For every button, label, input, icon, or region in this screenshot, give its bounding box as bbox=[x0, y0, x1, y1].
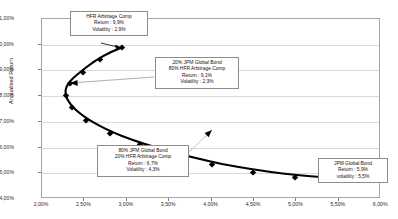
callout-line: volatility : 5,5% bbox=[322, 174, 384, 180]
callout-line: Volatility : 2,9% bbox=[74, 27, 144, 33]
x-tick-label-2-00: 2,00% bbox=[19, 201, 63, 207]
gridline-horizontal bbox=[42, 96, 379, 97]
callout-hfr-arbitrage: HFR Arbitrage Comp Return : 9,9% Volatil… bbox=[70, 11, 148, 36]
y-tick-label-8: 8,00% bbox=[0, 95, 14, 101]
y-tick-label-5: 5,00% bbox=[0, 172, 14, 178]
y-tick-label-6: 6,00% bbox=[0, 147, 14, 153]
callout-jpm-global-bond: JPM Global Bond Return : 5,9% volatility… bbox=[318, 158, 388, 183]
x-tick-label-3-00: 3,00% bbox=[104, 201, 148, 207]
x-tick-mark bbox=[295, 198, 296, 201]
callout-mix-80-20: 80% JPM Global Bond 20% HFR Arbitrage Co… bbox=[97, 145, 189, 177]
gridline-horizontal bbox=[42, 148, 379, 149]
callout-line: 80% HFR Arbitrage Comp bbox=[159, 66, 235, 72]
callout-line: Volatility : 4,3% bbox=[101, 167, 185, 173]
x-tick-label-6-00: 6,00% bbox=[358, 201, 398, 207]
x-tick-label-4-50: 4,50% bbox=[231, 201, 275, 207]
x-tick-label-3-50: 3,50% bbox=[146, 201, 190, 207]
x-tick-mark bbox=[168, 198, 169, 201]
callout-mix-20-80: 20% JPM Global Bond 80% HFR Arbitrage Co… bbox=[155, 57, 239, 89]
x-tick-mark bbox=[253, 198, 254, 201]
x-tick-mark bbox=[211, 198, 212, 201]
x-tick-mark bbox=[338, 198, 339, 201]
y-tick-label-7: 7,00% bbox=[0, 121, 14, 127]
gridline-horizontal bbox=[42, 45, 379, 46]
x-tick-mark bbox=[126, 198, 127, 201]
y-tick-label-9: 9,00% bbox=[0, 69, 14, 75]
efficient-frontier-chart: Annualised Return 11,00% 10,00% 9,00% 8,… bbox=[0, 0, 398, 219]
x-tick-label-4-00: 4,00% bbox=[189, 201, 233, 207]
gridline-horizontal bbox=[42, 122, 379, 123]
y-tick-label-10: 10,00% bbox=[0, 44, 14, 50]
x-tick-label-5-50: 5,50% bbox=[316, 201, 360, 207]
x-tick-label-2-50: 2,50% bbox=[61, 201, 105, 207]
x-tick-mark bbox=[83, 198, 84, 201]
y-tick-label-11: 11,00% bbox=[0, 18, 14, 24]
callout-line: Volatility : 2,3% bbox=[159, 79, 235, 85]
x-tick-label-5-00: 5,00% bbox=[273, 201, 317, 207]
y-tick-label-4: 4,00% bbox=[0, 198, 14, 204]
